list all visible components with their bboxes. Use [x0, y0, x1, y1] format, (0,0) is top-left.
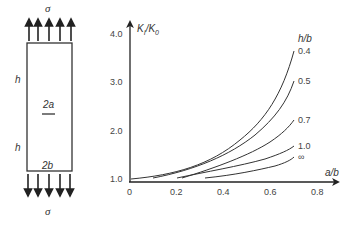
- curve-hb-0.7: [182, 120, 294, 178]
- x-tick-0.6: 0.6: [264, 187, 277, 197]
- y-tick-2: 2.0: [110, 126, 123, 136]
- x-tick-0.4: 0.4: [217, 187, 230, 197]
- curve-label-0.5: 0.5: [298, 76, 311, 86]
- y-tick-1: 1.0: [110, 174, 123, 184]
- y-title-k: K: [137, 23, 144, 34]
- stress-label-bottom: σ: [45, 205, 50, 217]
- curve-label-0.4: 0.4: [298, 46, 311, 56]
- curve-label-inf: ∞: [298, 152, 304, 162]
- width-label: 2b: [42, 160, 53, 171]
- y-tick-4: 4.0: [110, 29, 123, 39]
- y-title-div: /K: [146, 23, 155, 34]
- x-axis-title: a/b: [325, 167, 339, 178]
- y-tick-3: 3.0: [110, 77, 123, 87]
- curve-hb-1.0: [177, 146, 294, 178]
- height-label-lower: h: [15, 142, 21, 153]
- legend-title: h/b: [298, 33, 312, 44]
- curve-hb-0.5: [153, 81, 294, 178]
- curve-label-0.7: 0.7: [298, 115, 311, 125]
- x-tick-0.2: 0.2: [170, 187, 183, 197]
- curve-label-1.0: 1.0: [298, 141, 311, 151]
- x-tick-0: 0: [127, 187, 132, 197]
- x-tick-0.8: 0.8: [311, 187, 324, 197]
- tension-arrows-top: [26, 19, 75, 41]
- crack-length-label: 2a: [43, 99, 54, 110]
- height-label-upper: h: [15, 74, 21, 85]
- y-title-sub-0: 0: [155, 29, 159, 36]
- stress-label-top: σ: [45, 2, 50, 14]
- y-axis-title: KI/K0: [137, 23, 159, 36]
- curve-hb-inf: [205, 157, 294, 178]
- tension-arrows-bottom: [25, 174, 74, 196]
